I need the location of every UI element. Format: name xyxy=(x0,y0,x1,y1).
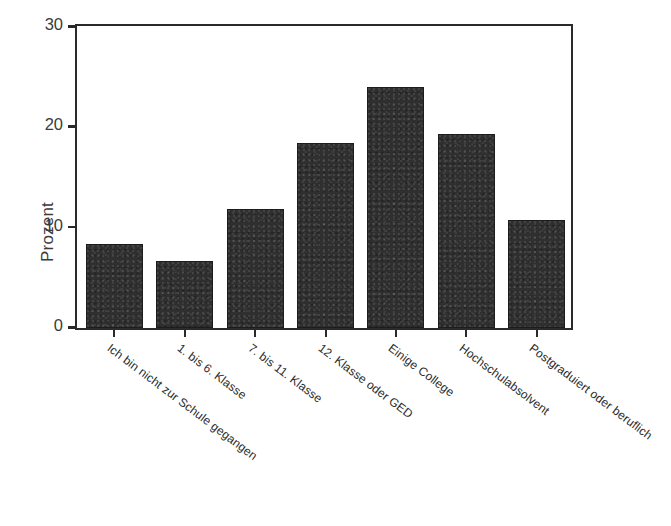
bar xyxy=(86,244,143,328)
y-tick-mark xyxy=(68,125,77,128)
bar xyxy=(227,209,284,328)
x-axis-tick xyxy=(325,328,327,337)
bar xyxy=(508,220,565,328)
y-tick-label: 20 xyxy=(45,115,63,134)
x-axis-tick xyxy=(465,328,467,337)
plot-area: 0102030 xyxy=(75,24,573,330)
bar xyxy=(367,87,424,328)
x-axis-tick xyxy=(254,328,256,337)
y-tick-mark xyxy=(68,226,77,229)
bar xyxy=(297,143,354,328)
x-axis-category-label: Ich bin nicht zur Schule gegangen xyxy=(104,341,259,463)
bar xyxy=(438,134,495,328)
y-tick-mark xyxy=(68,25,77,28)
bar-chart: Prozent 0102030 Ich bin nicht zur Schule… xyxy=(0,0,671,526)
x-axis-tick xyxy=(184,328,186,337)
x-axis-category-label: Postgraduiert oder beruflich xyxy=(527,341,655,443)
x-axis-tick xyxy=(395,328,397,337)
y-tick-label: 0 xyxy=(54,316,63,335)
x-axis-tick xyxy=(536,328,538,337)
y-tick-mark xyxy=(68,326,77,329)
x-axis-category-label: 1. bis 6. Klasse xyxy=(175,341,250,402)
y-tick-label: 10 xyxy=(45,216,63,235)
bar xyxy=(156,261,213,328)
x-axis-tick xyxy=(113,328,115,337)
y-tick-label: 30 xyxy=(45,15,63,34)
x-axis-category-label: 7. bis 11. Klasse xyxy=(245,341,324,406)
x-axis-category-label: Einige College xyxy=(386,341,457,400)
plot-inner: 0102030 xyxy=(77,26,571,328)
